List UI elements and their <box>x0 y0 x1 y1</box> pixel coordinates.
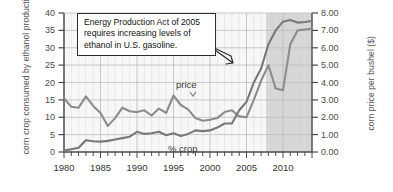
xtick-2005: 2005 <box>227 162 267 173</box>
ytick-right-3: 3.00 <box>321 95 355 105</box>
xtick-2000: 2000 <box>190 162 230 173</box>
xtick-1990: 1990 <box>117 162 157 173</box>
ytick-left-40: 40 <box>29 8 55 18</box>
annotation-line-2: requires increasing levels of <box>84 28 210 39</box>
left-axis-ticks <box>59 13 65 152</box>
annotation-line-1: Energy Production Act of 2005 <box>84 17 210 28</box>
ytick-left-25: 25 <box>29 60 55 70</box>
xtick-1980: 1980 <box>44 162 84 173</box>
ytick-left-10: 10 <box>29 112 55 122</box>
ytick-right-4: 4.00 <box>321 78 355 88</box>
ytick-left-15: 15 <box>29 95 55 105</box>
right-axis-ticks <box>312 13 318 152</box>
ytick-left-5: 5 <box>29 130 55 140</box>
annotation-line-3: ethanol in U.S. gasoline. <box>84 40 210 51</box>
ytick-left-35: 35 <box>29 25 55 35</box>
ytick-right-7: 7.00 <box>321 25 355 35</box>
ytick-left-30: 30 <box>29 43 55 53</box>
ytick-right-2: 2.00 <box>321 112 355 122</box>
ytick-right-0: 0.00 <box>321 147 355 157</box>
ytick-right-1: 1.00 <box>321 130 355 140</box>
series-label-crop: % crop <box>168 143 198 154</box>
y-axis-right-title: corn price per bushel ($) <box>366 8 377 158</box>
ytick-right-8: 8.00 <box>321 8 355 18</box>
annotation-callout: Energy Production Act of 2005 requires i… <box>77 13 216 56</box>
ytick-right-5: 5.00 <box>321 60 355 70</box>
xtick-1985: 1985 <box>81 162 121 173</box>
corn-ethanol-chart: corn crop consumed by ethanol production… <box>0 0 393 192</box>
series-label-price: price <box>176 79 197 90</box>
ytick-left-0: 0 <box>29 147 55 157</box>
xtick-2010: 2010 <box>263 162 303 173</box>
xtick-1995: 1995 <box>154 162 194 173</box>
ytick-right-6: 6.00 <box>321 43 355 53</box>
ytick-left-20: 20 <box>29 78 55 88</box>
